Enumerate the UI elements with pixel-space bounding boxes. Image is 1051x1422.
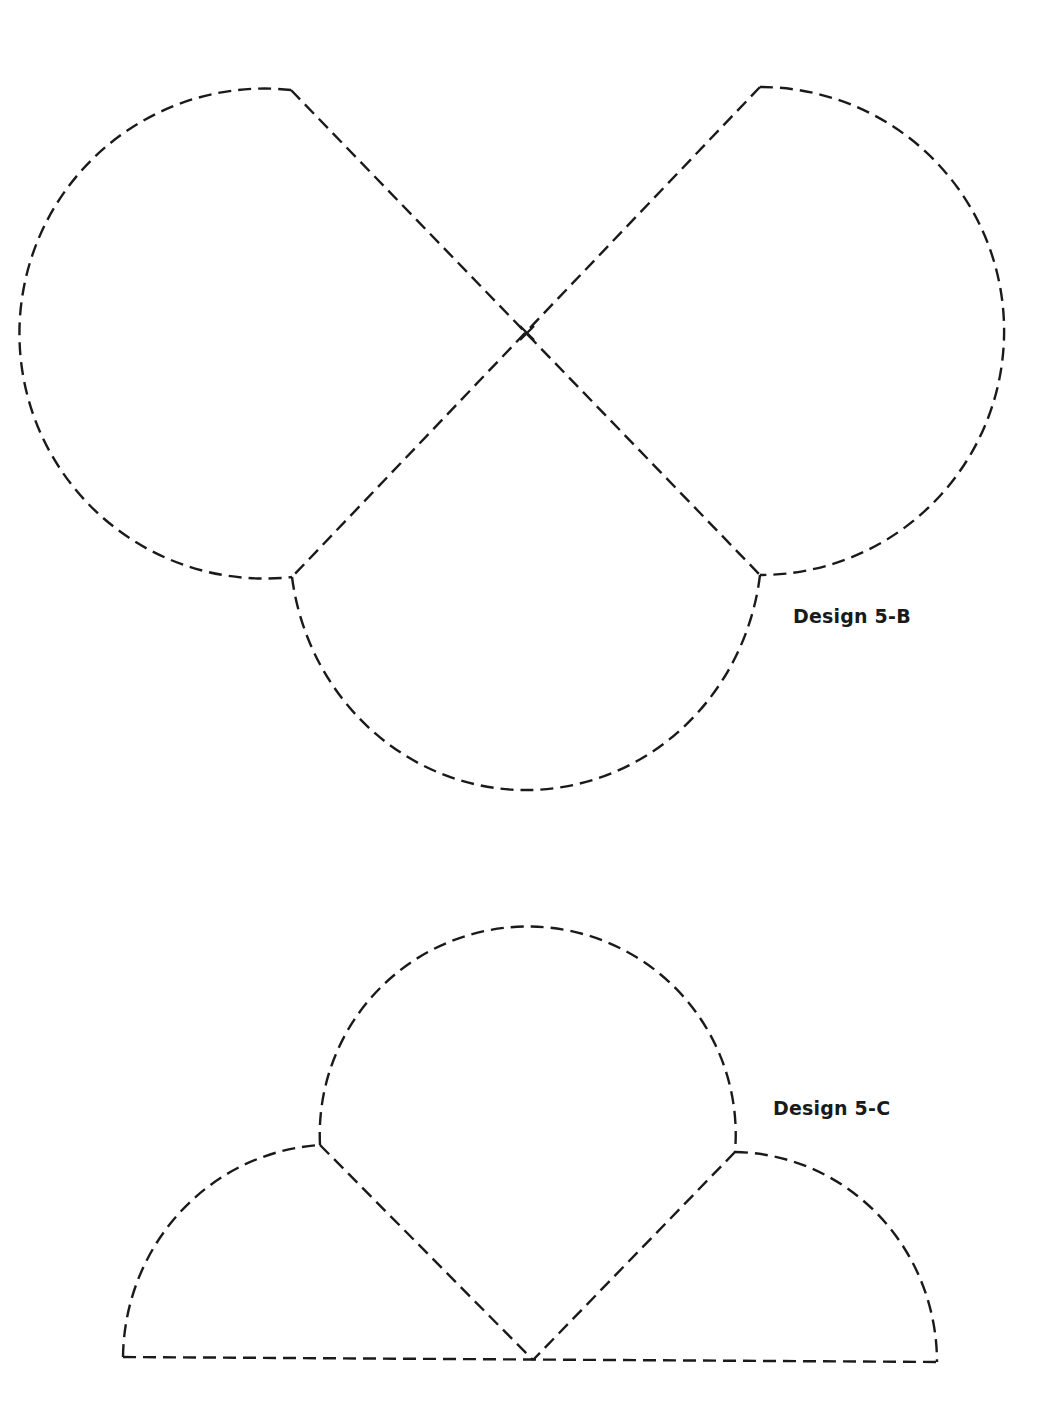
- design-5c-top-arc: [320, 927, 736, 1152]
- design-5c-baseline: [123, 1357, 937, 1362]
- design-5c-right-arc: [735, 1152, 937, 1362]
- design-5b-label: Design 5-B: [793, 605, 911, 627]
- design-5b-right-arc: [760, 87, 1004, 575]
- pattern-canvas: [0, 0, 1051, 1422]
- design-5b-pattern: [19, 87, 1004, 790]
- design-5c-label: Design 5-C: [773, 1097, 890, 1119]
- design-5c-right-diagonal-line: [533, 1152, 735, 1360]
- design-5b-left-arc: [19, 89, 292, 579]
- design-5c-left-diagonal-line: [320, 1145, 533, 1360]
- design-5b-bottom-arc: [292, 575, 760, 790]
- design-5c-pattern: [123, 927, 937, 1362]
- design-5c-left-arc: [123, 1145, 320, 1357]
- design-5b-crossing-mark: [520, 326, 534, 340]
